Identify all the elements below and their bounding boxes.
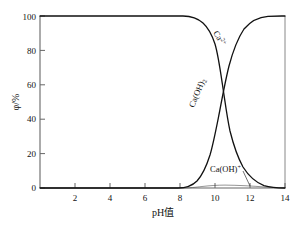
- speciation-diagram: 0 20 40 60 80 100 2 4 6 8 10 12 14: [0, 0, 303, 231]
- x-tick-label-12: 12: [246, 193, 255, 203]
- x-axis-title: pH值: [152, 206, 174, 218]
- x-tick-label-10: 10: [211, 193, 221, 203]
- x-tick-label-4: 4: [108, 193, 113, 203]
- x-tick-label-8: 8: [178, 193, 183, 203]
- y-tick-label-60: 60: [27, 80, 37, 90]
- y-tick-label-80: 80: [27, 46, 37, 56]
- x-tick-label-6: 6: [143, 193, 148, 203]
- chart-background: [0, 0, 303, 231]
- chart-figure: 0 20 40 60 80 100 2 4 6 8 10 12 14: [0, 0, 303, 231]
- y-tick-label-20: 20: [27, 149, 37, 159]
- y-tick-label-0: 0: [32, 183, 37, 193]
- curve-label-ca-oh-plus-text: Ca(OH)+: [210, 164, 241, 174]
- x-tick-label-14: 14: [281, 193, 291, 203]
- y-tick-label-40: 40: [27, 114, 37, 124]
- x-tick-label-2: 2: [73, 193, 78, 203]
- y-axis-title: φ/%: [10, 94, 21, 111]
- y-tick-label-100: 100: [23, 12, 37, 22]
